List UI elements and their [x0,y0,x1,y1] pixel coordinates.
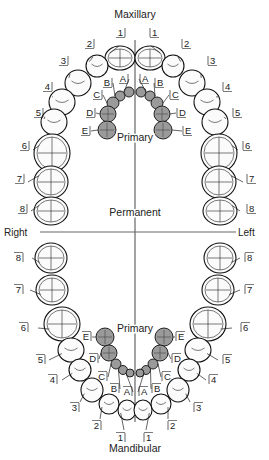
tooth-label-maxillary_primary: E [183,125,192,136]
tooth-number: 5 [36,107,41,118]
permanent-tooth[interactable] [30,275,68,305]
tooth-label-mandibular_permanent: 7 [14,284,23,295]
tooth-number: E [82,125,88,136]
tooth-number: 3 [61,55,66,66]
tooth-number: 8 [20,203,25,214]
permanent-tooth[interactable] [49,338,84,362]
permanent-tooth[interactable] [202,109,228,135]
maxillary-title: Maxillary [114,8,156,20]
permanent-tooth[interactable] [202,275,240,305]
tooth-number: A [124,386,131,397]
permanent-tooth[interactable] [62,359,91,381]
primary-tooth[interactable] [92,328,114,346]
tooth-label-maxillary_permanent: 6 [243,140,252,151]
tooth-number: 7 [17,173,22,184]
tooth-label-maxillary_permanent: 1 [116,27,125,38]
primary-tooth[interactable] [96,106,116,122]
primary-tooth[interactable] [152,345,171,361]
tooth-number: C [98,371,105,382]
tooth-label-mandibular_primary: A [139,386,148,397]
tooth-number: 6 [21,322,26,333]
primary-tooth[interactable] [154,106,176,122]
tooth-label-maxillary_permanent: 8 [18,203,27,214]
tooth-number: D [86,107,93,118]
tooth-label-maxillary_permanent: 5 [34,107,43,118]
tooth-number: E [185,125,191,136]
tooth-label-mandibular_primary: B [152,383,161,394]
permanent-tooth[interactable] [28,166,68,198]
tooth-label-mandibular_permanent: 8 [245,252,254,263]
tooth-number: D [89,353,96,364]
tooth-number: E [178,331,184,342]
permanent-tooth[interactable] [118,400,136,430]
tooth-label-maxillary_permanent: 8 [247,203,256,214]
tooth-label-mandibular_permanent: 3 [194,402,203,413]
permanent-tooth[interactable] [86,55,108,77]
permanent-tooth[interactable] [151,394,171,419]
tooth-number: D [179,107,186,118]
tooth-label-mandibular_primary: C [162,371,171,382]
tooth-label-mandibular_permanent: 5 [36,354,45,365]
tooth-label-mandibular_permanent: 5 [223,354,232,365]
permanent-tooth[interactable] [32,243,67,273]
tooth-label-maxillary_permanent: 6 [20,140,29,151]
tooth-label-mandibular_permanent: 6 [241,322,250,333]
tooth-label-mandibular_permanent: 8 [14,252,23,263]
tooth-number: 6 [245,140,250,151]
tooth-label-maxillary_primary: E [81,125,90,136]
tooth-number: 7 [16,284,21,295]
tooth-label-mandibular_primary: D [89,353,98,364]
tooth-label-mandibular_permanent: 4 [209,374,218,385]
tooth-number: 3 [72,402,77,413]
tooth-number: 4 [225,81,230,92]
permanent-tooth[interactable] [105,46,135,70]
permanent-tooth[interactable] [41,109,67,135]
primary-tooth[interactable] [154,121,182,139]
permanent-tooth[interactable] [190,307,232,341]
tooth-label-maxillary_permanent: 1 [150,27,159,38]
tooth-number: 4 [50,374,55,385]
tooth-number: 1 [118,27,123,38]
tooth-number: 6 [243,322,248,333]
permanent-tooth[interactable] [135,46,165,70]
tooth-label-maxillary_permanent: 2 [182,38,191,49]
tooth-label-maxillary_permanent: 7 [15,173,24,184]
tooth-number: B [111,383,117,394]
tooth-number: 5 [38,354,43,365]
permanent-tooth[interactable] [203,197,240,225]
permanent-tooth[interactable] [204,243,240,273]
permanent-tooth[interactable] [99,394,119,419]
tooth-number: B [157,77,163,88]
tooth-number: C [164,371,171,382]
tooth-number: 7 [249,173,254,184]
permanent-tooth[interactable] [31,197,68,225]
permanent-tooth[interactable] [134,400,152,430]
tooth-number: A [142,73,149,84]
permanent-tooth[interactable] [202,166,243,198]
primary-tooth[interactable] [99,345,117,361]
primary-tooth[interactable] [155,328,175,346]
tooth-number: A [120,73,127,84]
tooth-number: 4 [45,81,50,92]
permanent-tooth[interactable] [178,359,206,381]
tooth-label-mandibular_primary: D [172,353,181,364]
tooth-label-mandibular_permanent: 3 [70,402,79,413]
tooth-label-maxillary_primary: C [170,89,179,100]
tooth-label-maxillary_primary: A [119,73,128,84]
tooth-number: 1 [152,27,157,38]
tooth-number: 7 [247,284,252,295]
tooth-label-maxillary_primary: B [103,77,112,88]
tooth-label-mandibular_permanent: 2 [168,420,177,431]
tooth-number: 2 [94,420,99,431]
tooth-label-mandibular_permanent: 7 [245,284,254,295]
tooth-number: A [141,386,148,397]
tooth-label-maxillary_permanent: 7 [247,173,256,184]
right-side-label: Right [4,227,28,238]
tooth-label-mandibular_primary: E [176,331,185,342]
tooth-label-mandibular_primary: C [98,371,107,382]
permanent-tooth[interactable] [38,307,80,341]
primary-tooth[interactable] [91,121,116,139]
permanent-tooth[interactable] [185,338,218,362]
permanent-tooth[interactable] [162,55,184,77]
tooth-label-maxillary_primary: D [86,107,95,118]
